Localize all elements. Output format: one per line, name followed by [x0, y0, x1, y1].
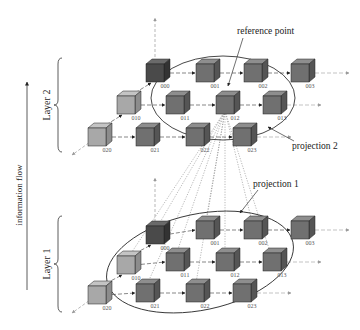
node-label: 001: [211, 83, 220, 89]
node-label: 003: [306, 240, 315, 246]
layered-grid-diagram: information flow Layer 20000010020030100…: [0, 0, 360, 330]
node-label: 010: [132, 275, 141, 281]
node-label: 013: [278, 115, 287, 121]
node-cube-020: 020: [88, 123, 112, 153]
node-label: 002: [259, 240, 268, 246]
node-cube-003: 003: [291, 59, 315, 89]
node-cube-022: 022: [186, 123, 210, 153]
node-cube-002: 002: [244, 59, 268, 89]
layer-label: Layer 2: [41, 90, 52, 121]
node-label: 021: [151, 303, 160, 309]
node-label: 012: [231, 272, 240, 278]
node-label: 010: [132, 115, 141, 121]
node-cube-023: 023: [233, 279, 257, 309]
layer-layer2: Layer 2000001002003010011012013020021022…: [41, 18, 349, 155]
node-label: 011: [181, 272, 190, 278]
node-label: 002: [259, 83, 268, 89]
node-cube-000: 000: [146, 59, 170, 89]
node-cube-001: 001: [196, 216, 220, 246]
node-label: 020: [103, 305, 112, 311]
node-label: 003: [306, 83, 315, 89]
layer-layer1: Layer 1000001002003010011012013020021022…: [41, 178, 349, 329]
node-cube-021: 021: [136, 279, 160, 309]
node-label: 012: [231, 115, 240, 121]
node-cube-023: 023: [233, 123, 257, 153]
node-cube-012: 012: [216, 248, 240, 278]
node-label: 023: [248, 303, 257, 309]
node-cube-013: 013: [263, 91, 287, 121]
node-cube-021: 021: [136, 123, 160, 153]
node-label: 022: [201, 147, 210, 153]
node-label: 000: [161, 245, 170, 251]
node-label: 013: [278, 272, 287, 278]
node-cube-022: 022: [186, 279, 210, 309]
node-cube-020: 020: [88, 281, 112, 311]
node-label: 011: [181, 115, 190, 121]
node-cube-013: 013: [263, 248, 287, 278]
node-cube-002: 002: [244, 216, 268, 246]
information-flow-label: information flow: [14, 164, 24, 226]
layer-brace-icon: [54, 216, 62, 312]
node-cube-011: 011: [166, 91, 190, 121]
node-label: 022: [201, 303, 210, 309]
layer-label: Layer 1: [41, 249, 52, 280]
information-flow-axis: information flow: [14, 82, 27, 290]
node-cube-000: 000: [146, 221, 170, 251]
projection-2-pointer-icon: [268, 127, 294, 141]
node-cube-011: 011: [166, 248, 190, 278]
node-label: 020: [103, 147, 112, 153]
node-label: 001: [211, 240, 220, 246]
node-cube-010: 010: [117, 251, 141, 281]
node-cube-010: 010: [117, 91, 141, 121]
reference-point-label: reference point: [237, 26, 295, 36]
node-cube-001: 001: [196, 59, 220, 89]
node-cube-012: 012: [216, 91, 240, 121]
reference-point-pointer-icon: [228, 38, 243, 86]
node-label: 023: [248, 147, 257, 153]
layer-brace-icon: [54, 58, 62, 152]
node-label: 000: [161, 83, 170, 89]
node-cube-003: 003: [291, 216, 315, 246]
projection-2-label: projection 2: [292, 141, 338, 151]
projection-1-label: projection 1: [253, 179, 299, 189]
node-label: 021: [151, 147, 160, 153]
